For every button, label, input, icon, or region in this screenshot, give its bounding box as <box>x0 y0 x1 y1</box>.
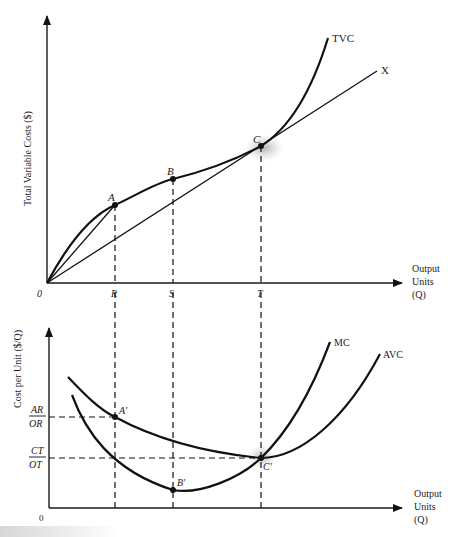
label-b: B <box>167 165 174 177</box>
label-tvc: TVC <box>332 32 354 44</box>
label-c-prime: C′ <box>263 461 273 472</box>
tick-r: R <box>110 288 117 299</box>
top-origin-label: 0 <box>37 288 42 299</box>
bottom-chart: A′ B′ C′ MC AVC AR OR CT OT 0 Output Uni… <box>12 292 442 526</box>
point-b-prime <box>170 487 176 493</box>
bottom-y-axis-label: Cost per Unit ($/Q) <box>12 330 24 408</box>
top-x-label-line1: Output <box>412 263 440 274</box>
label-avc: AVC <box>383 349 403 360</box>
bottom-x-label-line2: Units <box>414 501 436 512</box>
tvc-curve <box>47 38 328 283</box>
bottom-origin-label: 0 <box>39 513 44 523</box>
tick-ar-numerator: AR <box>30 404 43 415</box>
label-c: C <box>253 133 261 145</box>
tick-or-denominator: OR <box>29 418 42 429</box>
tangent-highlight <box>244 134 284 162</box>
ray-x <box>47 71 377 283</box>
point-a-prime <box>112 414 118 420</box>
ray-oa <box>47 205 115 283</box>
bottom-x-label-line3: (Q) <box>414 514 428 526</box>
label-b-prime: B′ <box>177 477 186 488</box>
tick-ar-or: AR OR <box>29 404 46 429</box>
label-a-prime: A′ <box>118 405 128 416</box>
label-x: X <box>381 64 389 76</box>
scan-shadow <box>0 526 120 537</box>
bottom-x-label-line1: Output <box>414 488 442 499</box>
top-x-label-line2: Units <box>412 276 434 287</box>
top-x-label-line3: (Q) <box>412 289 426 301</box>
label-a: A <box>107 191 115 203</box>
tick-ct-ot: CT OT <box>29 445 46 470</box>
tick-ot-denominator: OT <box>29 459 43 470</box>
top-y-axis-label: Total Variable Costs ($) <box>22 111 34 206</box>
label-mc: MC <box>334 337 350 348</box>
top-chart: A B C TVC X 0 R S T Output Units (Q) Tot… <box>22 16 440 301</box>
tick-ct-numerator: CT <box>31 445 45 456</box>
cost-curves-figure: A B C TVC X 0 R S T Output Units (Q) Tot… <box>0 0 457 537</box>
